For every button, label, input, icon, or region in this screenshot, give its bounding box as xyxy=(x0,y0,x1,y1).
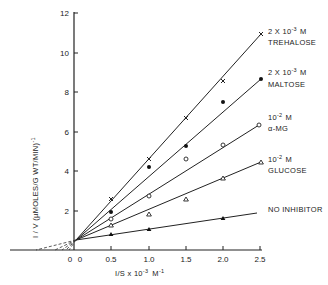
label-maltose: MALTOSE xyxy=(268,80,305,89)
label-glucose-conc: 10-2M xyxy=(268,154,292,164)
x-tick-0.5: 0.5 xyxy=(105,255,117,264)
y-tick-6: 6 xyxy=(65,128,70,137)
label-alpha-mg-conc: 10-2M xyxy=(268,112,292,122)
trehalose-line xyxy=(76,34,261,240)
label-trehalose-conc: 2 X 10-3M xyxy=(268,26,307,36)
y-tick-8: 8 xyxy=(65,88,70,97)
y-ticks: 12 10 8 6 4 2 xyxy=(60,9,78,216)
glucose-line xyxy=(76,162,261,240)
series-labels: 2 X 10-3M TREHALOSE 2 X 10-3M MALTOSE 10… xyxy=(268,26,323,214)
x-axis-label: I/S x 10-3M-1 xyxy=(115,268,164,278)
x-ticks: 0 0 0.5 1.0 1.5 2.0 2.5 xyxy=(68,246,266,264)
label-no-inhibitor: NO INHIBITOR xyxy=(268,205,323,214)
lineweaver-burk-chart: 12 10 8 6 4 2 0 0 0.5 1.0 1.5 2.0 2.5 I/… xyxy=(0,0,328,285)
label-maltose-conc: 2 X 10-3M xyxy=(268,67,307,77)
x-tick-2.0: 2.0 xyxy=(217,255,229,264)
no-inhibitor-line xyxy=(76,213,257,240)
x-tick-0-left: 0 xyxy=(68,255,73,264)
x-tick-0: 0 xyxy=(78,255,83,264)
y-tick-2: 2 xyxy=(65,207,70,216)
dashed-extrapolations xyxy=(36,240,76,250)
y-tick-12: 12 xyxy=(60,9,69,18)
x-tick-1.5: 1.5 xyxy=(180,255,192,264)
y-tick-4: 4 xyxy=(65,167,70,176)
label-alpha-mg: α-MG xyxy=(268,124,288,133)
label-glucose: GLUCOSE xyxy=(268,166,307,175)
x-tick-2.5: 2.5 xyxy=(254,255,266,264)
label-trehalose: TREHALOSE xyxy=(268,38,316,47)
y-tick-10: 10 xyxy=(60,49,69,58)
x-tick-1.0: 1.0 xyxy=(143,255,155,264)
y-axis-label: I / V (µMOLES/G WT/MIN)-1 xyxy=(30,137,40,238)
fit-lines xyxy=(76,34,261,240)
alpha-mg-line xyxy=(76,125,259,240)
maltose-line xyxy=(76,79,261,240)
